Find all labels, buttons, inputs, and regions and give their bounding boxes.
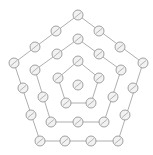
node-outer [94,26,104,36]
node-center [73,80,83,90]
node-outer [18,83,28,93]
node-outer [73,10,83,20]
node-inner [94,73,104,83]
node-inner [86,98,96,108]
node-middle [30,65,40,75]
node-middle [108,92,118,102]
node-middle [38,92,48,102]
node-middle [73,117,83,127]
node-outer [60,136,70,146]
node-outer [113,136,123,146]
node-outer [9,58,19,68]
node-inner [73,56,83,66]
node-middle [99,117,109,127]
node-outer [115,42,125,52]
node-middle [116,65,126,75]
node-inner [53,73,63,83]
node-outer [86,136,96,146]
node-middle [94,49,104,59]
node-outer [30,42,40,52]
node-middle [46,117,56,127]
node-middle [52,49,62,59]
pentagon-diagram [0,0,153,155]
node-outer [26,110,36,120]
node-inner [61,98,71,108]
node-outer [128,83,138,93]
node-outer [35,136,45,146]
diagram-canvas [0,0,153,155]
node-outer [51,26,61,36]
node-outer [138,58,148,68]
node-outer [120,110,130,120]
node-middle [73,34,83,44]
